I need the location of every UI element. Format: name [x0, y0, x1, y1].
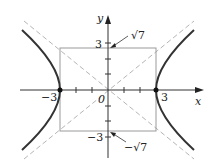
- sqrt7-arrow-icon: [110, 43, 116, 48]
- y-axis-label: y: [96, 12, 104, 25]
- y-tick-label-pos: 3: [95, 38, 102, 51]
- x-tick-label-pos: 3: [161, 91, 168, 104]
- sqrt7-label: √7: [131, 29, 145, 42]
- origin-label: 0: [98, 93, 105, 106]
- hyperbola-diagram: y x 0 −3 3 3 −3 √7 −√7: [0, 0, 216, 164]
- x-axis-arrow-icon: [195, 87, 204, 93]
- neg-sqrt7-arrow-icon: [110, 132, 116, 137]
- y-tick-label-neg: −3: [87, 131, 103, 144]
- neg-sqrt7-label: −√7: [124, 141, 147, 154]
- vertex-left: [58, 88, 63, 93]
- vertex-right: [154, 88, 159, 93]
- x-axis-label: x: [195, 95, 202, 108]
- y-axis-arrow-icon: [105, 15, 111, 24]
- x-tick-label-neg: −3: [41, 91, 57, 104]
